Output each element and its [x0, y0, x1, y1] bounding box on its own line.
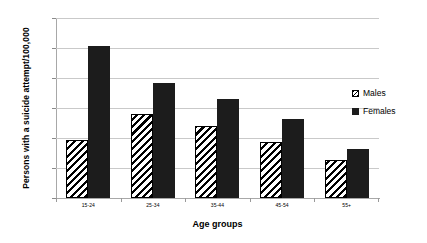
legend-item-females: Females: [352, 106, 424, 116]
bar-females-25-34: [153, 83, 175, 198]
bar-males-35-44: [195, 126, 217, 198]
bar-chart: Persons with a suicide attempt/100,000 0…: [0, 0, 427, 243]
x-tick-mark: [121, 198, 122, 202]
bar-females-15-24: [88, 46, 110, 198]
bar-group: [56, 18, 121, 198]
bar-males-45-54: [260, 142, 282, 198]
x-axis-title: Age groups: [56, 219, 379, 229]
x-tick-label: 55+: [314, 203, 379, 209]
x-tick-mark: [314, 198, 315, 202]
legend-label-males: Males: [363, 88, 386, 98]
bar-group: [250, 18, 315, 198]
x-tick-label: 15-24: [56, 203, 121, 209]
bar-females-55+: [347, 149, 369, 198]
x-tick-label: 35-44: [185, 203, 250, 209]
x-tick-mark: [185, 198, 186, 202]
bar-males-25-34: [131, 114, 153, 198]
bar-females-35-44: [217, 99, 239, 198]
chart-legend: Males Females: [352, 88, 424, 124]
bar-males-15-24: [66, 140, 88, 198]
bar-females-45-54: [282, 119, 304, 198]
legend-label-females: Females: [363, 106, 396, 116]
bar-males-55+: [325, 160, 347, 198]
x-tick-label: 25-34: [121, 203, 186, 209]
legend-item-males: Males: [352, 88, 424, 98]
x-tick-label: 45-54: [250, 203, 315, 209]
x-axis-tick-labels: 15-2425-3435-4445-5455+: [56, 203, 379, 209]
legend-swatch-females-icon: [352, 108, 359, 115]
legend-swatch-males-icon: [352, 90, 359, 97]
bar-groups: [56, 18, 379, 198]
bar-group: [185, 18, 250, 198]
x-tick-mark: [378, 198, 379, 202]
bar-group: [121, 18, 186, 198]
x-tick-mark: [56, 198, 57, 202]
y-axis-title: Persons with a suicide attempt/100,000: [21, 8, 31, 208]
x-tick-mark: [250, 198, 251, 202]
